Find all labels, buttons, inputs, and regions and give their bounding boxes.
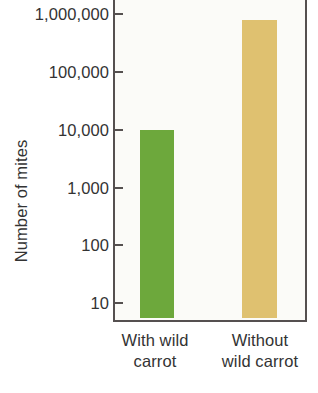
x-label-with-wild-carrot: With wild carrot — [113, 330, 197, 372]
bar-without-wild-carrot — [242, 20, 277, 318]
x-label-line-1: Without — [213, 330, 307, 351]
bar-with-wild-carrot — [140, 130, 174, 318]
y-tick-label: 10 — [1, 294, 109, 313]
x-label-line-2: carrot — [113, 351, 197, 372]
y-tick-label: 10,000 — [1, 121, 109, 140]
y-tick-label: 1,000,000 — [1, 5, 109, 24]
x-label-without-wild-carrot: Without wild carrot — [213, 330, 307, 372]
y-axis-tick-labels: 1,000,000 100,000 10,000 1,000 100 10 — [0, 0, 109, 393]
chart-figure: Number of mites 1,000,000 100,000 10,000… — [0, 0, 318, 393]
y-tick-mark — [115, 187, 123, 189]
y-tick-label: 1,000 — [1, 179, 109, 198]
y-tick-mark — [115, 302, 123, 304]
y-tick-label: 100 — [1, 236, 109, 255]
y-tick-mark — [115, 244, 123, 246]
y-tick-mark — [115, 13, 123, 15]
x-label-line-2: wild carrot — [213, 351, 307, 372]
plot-inner — [115, 0, 305, 320]
y-tick-mark — [115, 129, 123, 131]
x-axis-category-labels: With wild carrot Without wild carrot — [113, 330, 307, 392]
y-tick-mark — [115, 71, 123, 73]
y-tick-label: 100,000 — [1, 63, 109, 82]
plot-area — [113, 0, 307, 322]
x-label-line-1: With wild — [113, 330, 197, 351]
